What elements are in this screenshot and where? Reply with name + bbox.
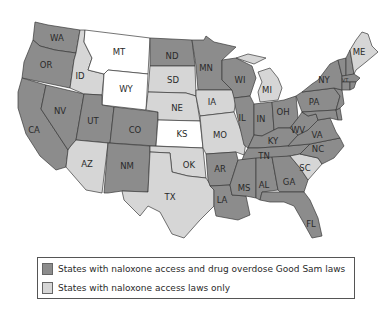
legend-swatch-dark (42, 263, 53, 275)
label-mi: MI (262, 85, 272, 95)
legend-item-both-laws: States with naloxone access and drug ove… (42, 262, 345, 276)
label-co: CO (129, 125, 142, 135)
label-ar: AR (214, 164, 226, 174)
label-va: VA (311, 130, 322, 140)
label-vt: VT (342, 77, 349, 83)
label-tx: TX (163, 192, 175, 202)
label-tn: TN (257, 151, 270, 161)
label-nm: NM (120, 161, 134, 171)
label-wv: WV (291, 125, 305, 135)
label-ny: NY (318, 75, 330, 85)
label-wi: WI (235, 75, 246, 85)
legend-label-naloxone-only: States with naloxone access laws only (58, 283, 230, 293)
legend-label-both-laws: States with naloxone access and drug ove… (58, 264, 345, 274)
label-wy: WY (119, 84, 133, 94)
us-map: WA OR CA NV ID MT WY UT CO AZ NM ND SD N… (0, 0, 385, 245)
label-ok: OK (183, 160, 196, 170)
label-nc: NC (312, 144, 324, 154)
label-or: OR (40, 60, 53, 70)
map-legend: States with naloxone access and drug ove… (37, 257, 355, 299)
label-ut: UT (87, 116, 99, 126)
label-id: ID (75, 71, 85, 81)
label-ia: IA (208, 97, 217, 107)
label-nv: NV (54, 106, 66, 116)
label-fl: FL (306, 219, 316, 229)
label-ky: KY (268, 136, 279, 146)
state-fl (260, 192, 322, 238)
label-wa: WA (50, 33, 64, 43)
state-ri (350, 82, 356, 90)
label-sd: SD (167, 75, 179, 85)
label-sc: SC (299, 163, 310, 173)
label-az: AZ (81, 159, 93, 169)
label-in: IN (257, 114, 266, 124)
label-ca: CA (28, 125, 40, 135)
label-mo: MO (213, 130, 227, 140)
legend-swatch-light (42, 282, 53, 294)
label-mt: MT (113, 47, 126, 57)
label-nd: ND (166, 51, 179, 61)
label-la: LA (217, 195, 228, 205)
label-ga: GA (283, 177, 296, 187)
label-oh: OH (276, 107, 289, 117)
label-me: ME (353, 47, 366, 57)
label-ms: MS (238, 183, 251, 193)
label-al: AL (259, 180, 270, 190)
label-pa: PA (309, 97, 320, 107)
label-ks: KS (177, 129, 188, 139)
legend-item-naloxone-only: States with naloxone access laws only (42, 281, 230, 295)
label-il: IL (238, 113, 246, 123)
label-mn: MN (199, 63, 213, 73)
label-ne: NE (171, 103, 183, 113)
